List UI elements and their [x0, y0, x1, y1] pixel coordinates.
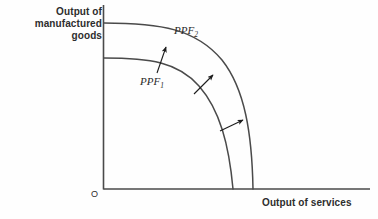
- origin-label: O: [91, 189, 98, 199]
- ppf1-curve: [104, 58, 233, 189]
- ppf2-label-subscript: 2: [194, 30, 198, 39]
- shift-arrow-3: [220, 120, 243, 131]
- x-axis-label: Output of services: [262, 197, 352, 209]
- ppf1-curve-label: PPF1: [140, 75, 164, 90]
- shift-arrow-1: [157, 47, 166, 73]
- y-axis-label: Output of manufactured goods: [10, 6, 102, 42]
- ppf1-label-text: PPF: [140, 75, 160, 87]
- ppf2-label-text: PPF: [174, 24, 194, 36]
- ppf1-label-subscript: 1: [160, 81, 164, 90]
- ppf2-curve-label: PPF2: [174, 24, 198, 39]
- ppf-diagram: Output of manufactured goods Output of s…: [0, 0, 378, 219]
